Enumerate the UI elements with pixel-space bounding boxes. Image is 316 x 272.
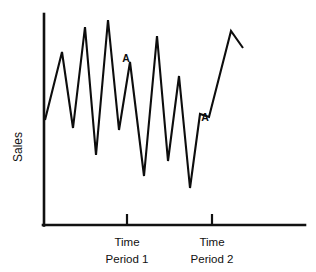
annotation-marker-a-1: A xyxy=(122,52,130,64)
x-tick-label-period-2-line-2: Period 2 xyxy=(191,253,234,265)
chart-figure: A A Sales Time Period 1 Time Period 2 xyxy=(0,0,316,272)
x-tick-label-period-1-line-1: Time xyxy=(114,236,139,248)
x-tick-label-period-2-line-1: Time xyxy=(199,236,224,248)
annotation-marker-a-2: A xyxy=(201,111,209,123)
line-chart-plot: A A Sales Time Period 1 Time Period 2 xyxy=(0,0,316,272)
y-axis-label: Sales xyxy=(11,132,25,162)
sales-data-line xyxy=(45,20,243,188)
x-tick-label-period-1-line-2: Period 1 xyxy=(106,253,149,265)
